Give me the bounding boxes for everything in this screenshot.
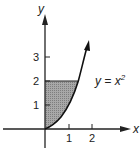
equation-exponent: 2 (120, 73, 126, 82)
y-tick-label-2: 2 (33, 75, 39, 87)
y-tick-label-3: 3 (33, 51, 39, 63)
equation-label: y = x2 (94, 73, 126, 88)
x-tick-label-2: 2 (89, 132, 95, 144)
x-tick-label-1: 1 (66, 132, 72, 144)
y-tick-label-1: 1 (33, 99, 39, 111)
y-axis-label: y (37, 2, 45, 16)
curve-arrow-icon (84, 40, 90, 51)
x-axis-label: x (132, 122, 140, 136)
equation-main: y = x (94, 74, 122, 88)
x-axis-arrow-icon (120, 126, 131, 132)
graph-figure: 1 2 3 1 2 y x y = x2 (0, 0, 140, 155)
